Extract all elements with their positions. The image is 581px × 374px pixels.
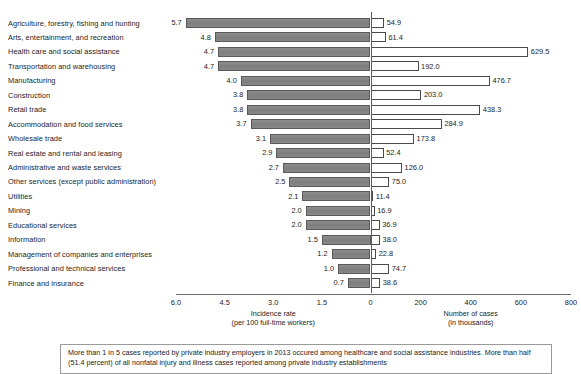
chart-row: 1.222.8 (0, 248, 581, 261)
incidence-rate-value: 4.7 (174, 47, 214, 57)
left-axis-title: Incidence rate(per 100 full-time workers… (173, 309, 373, 328)
axis-title-line: Number of cases (371, 309, 571, 319)
number-of-cases-value: 38.6 (383, 278, 397, 288)
number-of-cases-bar (371, 47, 529, 57)
chart-row: 0.738.6 (0, 277, 581, 290)
chart-row: 4.7629.5 (0, 46, 581, 59)
incidence-rate-bar (283, 163, 371, 173)
number-of-cases-value: 438.3 (483, 105, 502, 115)
number-of-cases-value: 38.0 (383, 235, 397, 245)
chart-row: 3.8203.0 (0, 89, 581, 102)
number-of-cases-value: 203.0 (424, 90, 443, 100)
axis-subtitle-line: (per 100 full-time workers) (173, 318, 373, 328)
incidence-rate-bar (247, 90, 370, 100)
incidence-rate-value: 3.1 (226, 134, 266, 144)
incidence-rate-bar (270, 134, 370, 144)
chart-row: 2.952.4 (0, 147, 581, 160)
number-of-cases-bar (371, 134, 415, 144)
left-axis-tick: 6.0 (156, 298, 196, 307)
number-of-cases-value: 54.9 (387, 18, 401, 28)
axis-title-line: Incidence rate (173, 309, 373, 319)
incidence-rate-value: 4.0 (197, 76, 237, 86)
number-of-cases-bar (371, 177, 390, 187)
incidence-rate-bar (332, 249, 371, 259)
number-of-cases-bar (371, 220, 380, 230)
number-of-cases-bar (371, 76, 490, 86)
chart-row: 2.036.9 (0, 219, 581, 232)
number-of-cases-bar (371, 148, 384, 158)
number-of-cases-value: 11.4 (376, 192, 390, 202)
incidence-rate-bar (251, 119, 371, 129)
number-of-cases-value: 74.7 (392, 264, 406, 274)
incidence-rate-value: 2.9 (232, 148, 272, 158)
number-of-cases-bar (371, 61, 419, 71)
incidence-rate-value: 5.7 (142, 18, 182, 28)
left-axis-tick: 3.0 (253, 298, 293, 307)
chart-row: 4.7192.0 (0, 60, 581, 73)
caption-text: More than 1 in 5 cases reported by priva… (68, 348, 544, 367)
incidence-rate-value: 3.8 (203, 105, 243, 115)
incidence-rate-bar (247, 105, 370, 115)
incidence-rate-value: 2.7 (239, 163, 279, 173)
number-of-cases-bar (371, 105, 481, 115)
number-of-cases-bar (371, 235, 381, 245)
incidence-rate-value: 2.0 (262, 206, 302, 216)
chart-row: 3.1173.8 (0, 133, 581, 146)
chart-row: 4.0476.7 (0, 75, 581, 88)
chart-row: 3.7284.9 (0, 118, 581, 131)
incidence-rate-value: 3.8 (203, 90, 243, 100)
right-axis-tick: 200 (401, 298, 441, 307)
x-axis-line (176, 294, 571, 295)
number-of-cases-value: 173.8 (417, 134, 436, 144)
number-of-cases-value: 36.9 (382, 220, 396, 230)
incidence-rate-value: 4.8 (171, 33, 211, 43)
number-of-cases-bar (371, 163, 403, 173)
chart-row: 1.538.0 (0, 234, 581, 247)
chart-row: 4.861.4 (0, 31, 581, 44)
right-axis-tick: 600 (501, 298, 541, 307)
incidence-rate-bar (302, 191, 370, 201)
incidence-rate-bar (348, 278, 371, 288)
number-of-cases-value: 61.4 (388, 33, 402, 43)
number-of-cases-value: 629.5 (531, 47, 550, 57)
number-of-cases-value: 16.9 (377, 206, 391, 216)
axis-subtitle-line: (in thousands) (371, 318, 571, 328)
number-of-cases-value: 52.4 (386, 148, 400, 158)
right-axis-tick: 0 (351, 298, 391, 307)
number-of-cases-bar (371, 90, 422, 100)
number-of-cases-value: 22.8 (379, 249, 393, 259)
number-of-cases-value: 476.7 (492, 76, 511, 86)
chart-row: 5.754.9 (0, 17, 581, 30)
incidence-rate-value: 2.5 (245, 177, 285, 187)
incidence-rate-value: 1.2 (288, 249, 328, 259)
left-axis-tick: 1.5 (302, 298, 342, 307)
chart-row: 1.074.7 (0, 263, 581, 276)
incidence-rate-bar (218, 61, 370, 71)
number-of-cases-bar (371, 278, 381, 288)
right-axis-title: Number of cases(in thousands) (371, 309, 571, 328)
incidence-rate-value: 0.7 (304, 278, 344, 288)
caption-box: More than 1 in 5 cases reported by priva… (60, 344, 552, 374)
incidence-rate-bar (322, 235, 371, 245)
number-of-cases-value: 75.0 (392, 177, 406, 187)
incidence-rate-bar (276, 148, 370, 158)
chart-row: 2.016.9 (0, 205, 581, 218)
incidence-rate-value: 1.5 (278, 235, 318, 245)
number-of-cases-bar (371, 264, 390, 274)
chart-row: 2.111.4 (0, 190, 581, 203)
incidence-rate-bar (306, 220, 371, 230)
number-of-cases-value: 126.0 (405, 163, 424, 173)
left-axis-tick: 4.5 (205, 298, 245, 307)
right-axis-tick: 400 (451, 298, 491, 307)
incidence-rate-bar (338, 264, 370, 274)
number-of-cases-value: 192.0 (421, 62, 440, 72)
incidence-rate-bar (215, 32, 371, 42)
incidence-rate-value: 3.7 (207, 119, 247, 129)
zero-axis-line (371, 12, 372, 293)
incidence-rate-value: 2.1 (258, 192, 298, 202)
incidence-rate-value: 1.0 (294, 264, 334, 274)
incidence-rate-bar (289, 177, 370, 187)
incidence-rate-bar (306, 206, 371, 216)
number-of-cases-bar (371, 18, 385, 28)
